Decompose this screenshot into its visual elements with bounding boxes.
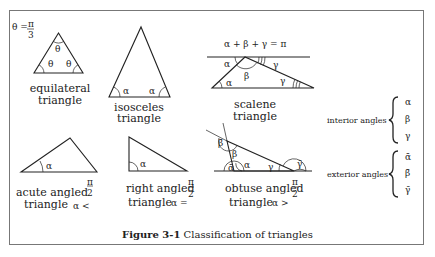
- alpha-bar: ᾱ: [228, 162, 234, 175]
- theta-left: θ: [48, 58, 53, 71]
- isosceles-line2: triangle: [104, 112, 174, 125]
- right-line1: right angled: [126, 182, 195, 195]
- acute-line2: triangle: [24, 198, 68, 211]
- equilateral-line2: triangle: [25, 94, 95, 107]
- exterior-beta-bar: β̄: [405, 167, 410, 180]
- right-line2: triangle: [128, 196, 172, 209]
- theta-top: θ: [55, 43, 60, 56]
- obtuse-two: 2: [292, 188, 298, 201]
- right-condition: α =: [171, 197, 187, 210]
- alpha-acute: α: [46, 160, 52, 173]
- obtuse-line2: triangle: [229, 196, 273, 209]
- acute-triangle: [21, 138, 97, 172]
- interior-beta: β: [405, 113, 410, 126]
- acute-condition: α <: [73, 200, 89, 213]
- gamma-upper: γ: [273, 59, 278, 72]
- figure-caption: Figure 3-1 Classification of triangles: [0, 229, 435, 240]
- gamma-lower: γ: [280, 75, 285, 88]
- triangle-diagram: [0, 0, 435, 257]
- beta-bar: β̄: [218, 137, 223, 150]
- interior-gamma: γ: [405, 130, 410, 143]
- interior-brace: [389, 97, 398, 143]
- scalene-line2: triangle: [220, 110, 290, 123]
- alpha-lower: α: [226, 77, 232, 90]
- alpha-right-angle: α: [140, 158, 146, 171]
- beta-obtuse: β: [232, 148, 237, 161]
- alpha-right: α: [149, 85, 155, 98]
- exterior-gamma-bar: γ̄: [405, 184, 410, 197]
- isosceles-triangle: [109, 27, 170, 97]
- gamma-obtuse: γ: [268, 161, 273, 174]
- obtuse-condition: α >: [272, 197, 288, 210]
- three-denominator: 3: [28, 29, 34, 42]
- caption-text: Classification of triangles: [184, 229, 313, 240]
- caption-label: Figure 3-1: [122, 229, 180, 240]
- angle-sum-label: α + β + γ = π: [224, 38, 286, 51]
- theta-eq-label: θ =: [12, 21, 28, 34]
- interior-angles-label: interior angles: [327, 114, 387, 127]
- exterior-angles-label: exterior angles: [327, 168, 388, 181]
- exterior-brace: [389, 151, 398, 197]
- gamma-bar: γ̄: [297, 158, 302, 171]
- alpha-left: α: [123, 85, 129, 98]
- interior-alpha: α: [405, 96, 411, 109]
- right-two: 2: [188, 188, 194, 201]
- exterior-alpha-bar: ᾱ: [405, 151, 411, 164]
- alpha-upper: α: [224, 58, 230, 71]
- acute-two: 2: [87, 187, 93, 200]
- beta-label: β: [244, 70, 249, 83]
- right-triangle: [129, 137, 187, 171]
- theta-right: θ: [66, 58, 71, 71]
- alpha-obtuse: α: [244, 159, 250, 172]
